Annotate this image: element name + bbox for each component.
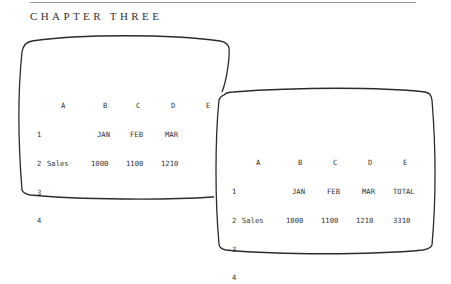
table-row: 4 [232,273,427,283]
col-header-c: C [136,101,140,111]
col-header-d: D [368,158,372,168]
cell-b2: 1000 [91,159,108,169]
row-number: 2 [37,159,41,169]
row-number: 4 [232,273,236,283]
col-header-b: B [103,101,107,111]
table-row: 1 JAN FEB MAR [37,130,217,140]
row-number: 1 [232,187,236,197]
cell-d2: 1210 [161,159,178,169]
table-row: 1 JAN FEB MAR TOTAL [232,187,427,197]
row-number: 3 [232,245,236,255]
row-number: 3 [37,188,41,198]
table-row: 3 [232,245,427,255]
cell-b1: JAN [292,187,305,197]
screen1-spreadsheet: A B C D E 1 JAN FEB MAR 2 Sales 1000 110… [37,82,217,236]
col-header-e: E [403,158,407,168]
cell-b1: JAN [97,130,110,140]
col-header-e: E [206,101,210,111]
table-row: 2 Sales 1000 1100 1210 3310 [232,216,427,226]
col-header-a: A [256,158,260,168]
cell-b2: 1000 [286,216,303,226]
cell-d2: 1210 [356,216,373,226]
column-header-row: A B C D E [37,101,217,111]
row-number: 4 [37,216,41,226]
column-header-row: A B C D E [232,158,427,168]
cell-c2: 1100 [321,216,338,226]
cell-a2: Sales [242,216,264,226]
col-header-b: B [298,158,302,168]
col-header-d: D [171,101,175,111]
cell-e1: TOTAL [393,187,415,197]
cell-e2: 3310 [393,216,410,226]
cell-d1: MAR [362,187,375,197]
row-number: 2 [232,216,236,226]
row-number: 1 [37,130,41,140]
cell-a2: Sales [47,159,69,169]
table-row: 4 [37,216,217,226]
table-row: 3 [37,188,217,198]
cell-c1: FEB [327,187,340,197]
screen2-spreadsheet: A B C D E 1 JAN FEB MAR TOTAL 2 Sales 10… [232,139,427,284]
col-header-a: A [61,101,65,111]
cell-c1: FEB [130,130,143,140]
col-header-c: C [333,158,337,168]
cell-d1: MAR [165,130,178,140]
table-row: 2 Sales 1000 1100 1210 [37,159,217,169]
cell-c2: 1100 [126,159,143,169]
